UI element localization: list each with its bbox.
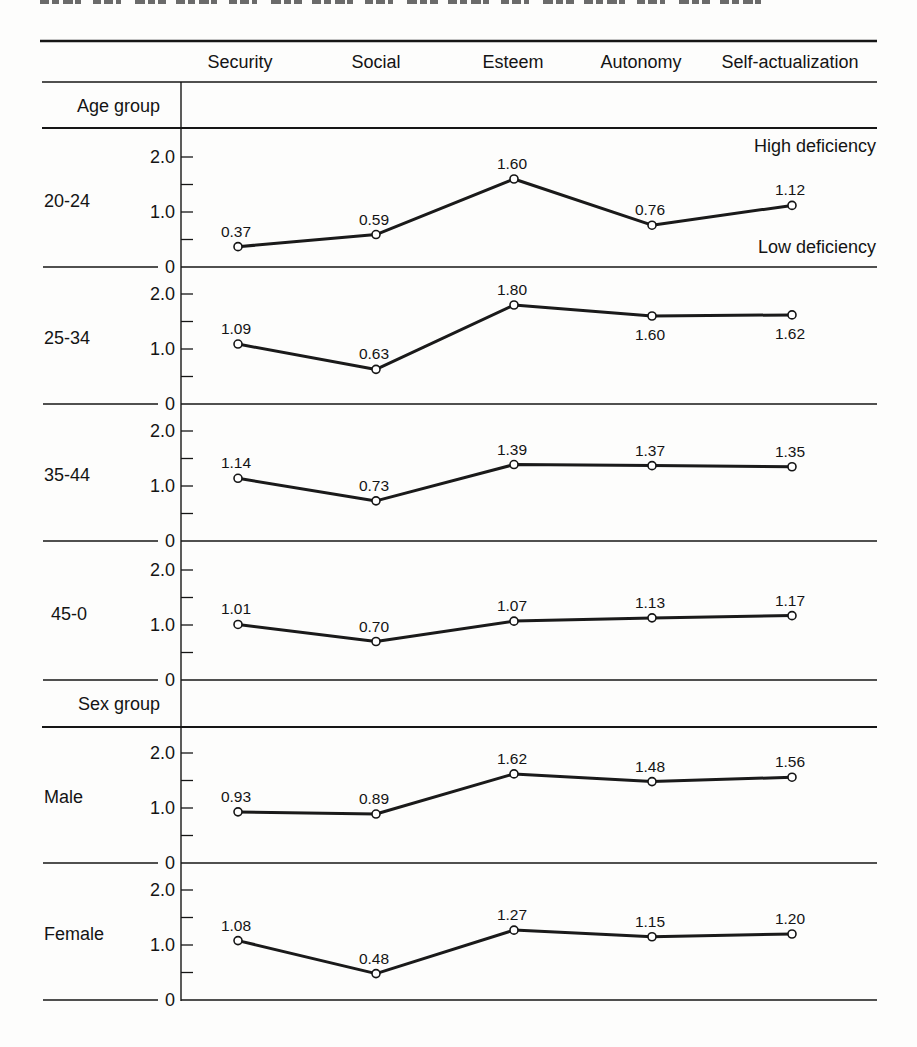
y-tick-label-2-0: 2.0 xyxy=(150,421,175,441)
data-point-marker xyxy=(372,231,380,239)
panel-35-44: 01.02.035-441.140.731.391.371.35 xyxy=(43,421,877,551)
y-tick-label-1-0: 1.0 xyxy=(150,202,175,222)
deficiency-profile-figure: Age groupSex group SecuritySocialEsteemA… xyxy=(0,0,917,1047)
data-point-marker xyxy=(788,311,796,319)
data-point-marker xyxy=(372,497,380,505)
data-point-marker xyxy=(788,930,796,938)
y-tick-label-0: 0 xyxy=(165,853,175,873)
data-point-marker xyxy=(510,175,518,183)
value-label: 0.37 xyxy=(221,223,251,240)
y-tick-label-2-0: 2.0 xyxy=(150,560,175,580)
value-label: 1.08 xyxy=(221,917,251,934)
data-point-marker xyxy=(648,778,656,786)
value-label: 1.62 xyxy=(497,750,527,767)
series-line-25-34 xyxy=(238,305,792,369)
panel-female: 01.02.0Female1.080.481.271.151.20 xyxy=(43,880,877,1010)
value-label: 1.60 xyxy=(635,326,666,343)
y-tick-label-1-0: 1.0 xyxy=(150,476,175,496)
value-label: 1.56 xyxy=(775,753,805,770)
row-label-male: Male xyxy=(44,787,83,807)
value-label: 1.35 xyxy=(775,443,805,460)
value-label: 1.12 xyxy=(775,181,805,198)
value-label: 1.80 xyxy=(497,281,528,298)
value-label: 1.60 xyxy=(497,155,528,172)
value-label: 0.63 xyxy=(359,345,389,362)
data-point-marker xyxy=(372,970,380,978)
value-label: 1.27 xyxy=(497,906,527,923)
data-point-marker xyxy=(788,463,796,471)
panel-20-24: 01.02.020-240.370.591.600.761.12High def… xyxy=(43,136,877,277)
row-label-female: Female xyxy=(44,924,104,944)
group-header-sex-group: Sex group xyxy=(78,694,160,714)
high-deficiency-annotation: High deficiency xyxy=(754,136,876,156)
y-tick-label-0: 0 xyxy=(165,670,175,690)
data-point-marker xyxy=(234,620,242,628)
data-point-marker xyxy=(648,614,656,622)
data-point-marker xyxy=(648,221,656,229)
data-point-marker xyxy=(234,808,242,816)
value-label: 1.17 xyxy=(775,592,805,609)
data-point-marker xyxy=(372,365,380,373)
column-header-esteem: Esteem xyxy=(482,52,543,72)
value-label: 1.37 xyxy=(635,442,665,459)
value-label: 0.59 xyxy=(359,211,389,228)
data-point-marker xyxy=(510,926,518,934)
panel-male: 01.02.0Male0.930.891.621.481.56 xyxy=(43,743,877,873)
column-header-social: Social xyxy=(351,52,400,72)
row-label-35-44: 35-44 xyxy=(44,465,90,485)
data-point-marker xyxy=(372,810,380,818)
panel-45-0: 01.02.045-01.010.701.071.131.17 xyxy=(43,560,877,690)
data-point-marker xyxy=(648,933,656,941)
data-point-marker xyxy=(510,770,518,778)
value-label: 1.14 xyxy=(221,454,252,471)
value-label: 0.70 xyxy=(359,618,390,635)
column-header-self-actualization: Self-actualization xyxy=(721,52,858,72)
data-point-marker xyxy=(510,461,518,469)
data-point-marker xyxy=(510,617,518,625)
panel-25-34: 01.02.025-341.090.631.801.601.62 xyxy=(43,281,877,414)
y-tick-label-1-0: 1.0 xyxy=(150,615,175,635)
y-tick-label-2-0: 2.0 xyxy=(150,880,175,900)
data-point-marker xyxy=(648,312,656,320)
row-label-45-0: 45-0 xyxy=(51,604,87,624)
y-tick-label-1-0: 1.0 xyxy=(150,798,175,818)
y-tick-label-0: 0 xyxy=(165,531,175,551)
value-label: 1.09 xyxy=(221,320,251,337)
y-tick-label-0: 0 xyxy=(165,394,175,414)
column-header-security: Security xyxy=(207,52,272,72)
y-tick-label-2-0: 2.0 xyxy=(150,147,175,167)
value-label: 1.15 xyxy=(635,913,665,930)
y-tick-label-0: 0 xyxy=(165,257,175,277)
data-point-marker xyxy=(788,201,796,209)
data-point-marker xyxy=(234,474,242,482)
row-label-25-34: 25-34 xyxy=(44,328,90,348)
value-label: 0.93 xyxy=(221,788,251,805)
value-label: 0.76 xyxy=(635,201,665,218)
value-label: 1.39 xyxy=(497,441,527,458)
data-point-marker xyxy=(234,340,242,348)
low-deficiency-annotation: Low deficiency xyxy=(758,237,876,257)
panel-stack: 01.02.020-240.370.591.600.761.12High def… xyxy=(43,136,877,1010)
value-label: 1.07 xyxy=(497,597,527,614)
y-tick-label-2-0: 2.0 xyxy=(150,743,175,763)
row-label-20-24: 20-24 xyxy=(44,191,90,211)
value-label: 0.73 xyxy=(359,477,389,494)
y-tick-label-1-0: 1.0 xyxy=(150,935,175,955)
column-header-autonomy: Autonomy xyxy=(600,52,681,72)
data-point-marker xyxy=(234,243,242,251)
data-point-marker xyxy=(788,773,796,781)
data-point-marker xyxy=(648,462,656,470)
value-label: 1.48 xyxy=(635,758,665,775)
y-tick-label-2-0: 2.0 xyxy=(150,284,175,304)
value-label: 1.13 xyxy=(635,594,665,611)
series-line-female xyxy=(238,930,792,974)
series-line-male xyxy=(238,774,792,814)
value-label: 1.62 xyxy=(775,325,805,342)
data-point-marker xyxy=(510,301,518,309)
value-label: 1.01 xyxy=(221,600,251,617)
y-tick-label-0: 0 xyxy=(165,990,175,1010)
value-label: 1.20 xyxy=(775,910,806,927)
series-line-20-24 xyxy=(238,179,792,247)
series-line-35-44 xyxy=(238,465,792,501)
value-label: 0.48 xyxy=(359,950,389,967)
